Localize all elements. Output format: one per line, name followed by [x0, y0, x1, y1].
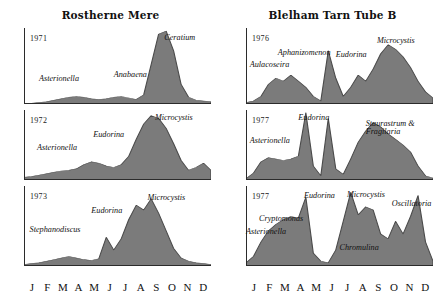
month-tick: M — [308, 281, 324, 299]
taxon-label-eudorina: Eudorina — [336, 51, 367, 60]
year-label: 1976 — [252, 34, 269, 43]
panel-y-axis — [246, 28, 247, 104]
panel-y-axis — [24, 110, 25, 180]
month-tick: S — [371, 281, 387, 299]
month-tick: A — [71, 281, 87, 299]
taxon-label-aphanizomenon: Aphanizomenon — [278, 49, 331, 58]
taxon-label-oscillatoria: Oscillatoria — [392, 200, 432, 209]
month-tick: O — [164, 281, 180, 299]
month-tick: J — [102, 281, 118, 299]
month-tick: D — [417, 281, 433, 299]
taxon-label-eudorina: Eudorina — [91, 207, 122, 216]
panel-y-axis — [24, 28, 25, 104]
column-title-left: Rostherne Mere — [0, 9, 221, 21]
month-tick: J — [324, 281, 340, 299]
taxon-label-microcystis: Microcystis — [377, 37, 415, 46]
panel-baseline — [24, 179, 211, 180]
taxon-label-anabaena: Anabaena — [114, 71, 147, 80]
panel-baseline — [246, 265, 433, 266]
month-tick: F — [40, 281, 56, 299]
panel-blelham-tarn-tube-b-1977-2: 1977AsterionellaCryptomonasEudorinaMicro… — [246, 186, 433, 266]
month-tick: M — [55, 281, 71, 299]
taxon-label-staurastrum-fragilaria: Staurastrum &Fragilaria — [366, 120, 415, 136]
taxon-label-ceratium: Ceratium — [164, 34, 195, 43]
month-axis-right: JFMAMJJASOND — [246, 281, 433, 299]
month-tick: J — [24, 281, 40, 299]
panel-y-axis — [246, 186, 247, 266]
taxon-label-eudorina: Eudorina — [298, 114, 329, 123]
month-tick: S — [149, 281, 165, 299]
month-tick: A — [355, 281, 371, 299]
month-tick: D — [195, 281, 211, 299]
panel-stack-left: 1971AsterionellaAnabaenaCeratium1972Aste… — [24, 28, 211, 266]
month-tick: J — [117, 281, 133, 299]
month-tick: J — [246, 281, 262, 299]
taxon-label-microcystis: Microcystis — [147, 194, 185, 203]
column-title-right: Blelham Tarn Tube B — [222, 9, 443, 21]
panel-rostherne-mere-1972-1: 1972AsterionellaEudorinaMicrocystis — [24, 110, 211, 180]
area-series — [246, 186, 433, 266]
month-tick: J — [339, 281, 355, 299]
taxon-label-asterionella: Asterionella — [250, 137, 290, 146]
taxon-label-chromulina: Chromulina — [340, 244, 379, 253]
month-axis-left: JFMAMJJASOND — [24, 281, 211, 299]
taxon-label-microcystis: Microcystis — [155, 114, 193, 123]
taxon-label-asterionella: Asterionella — [37, 144, 77, 153]
taxon-label-stephanodiscus: Stephanodiscus — [30, 226, 81, 235]
year-label: 1977 — [252, 192, 269, 201]
panel-y-axis — [24, 186, 25, 266]
taxon-label-asterionella: Asterionella — [246, 228, 286, 237]
panel-baseline — [24, 265, 211, 266]
taxon-label-eudorina: Eudorina — [93, 131, 124, 140]
month-tick: N — [180, 281, 196, 299]
panel-rostherne-mere-1973-2: 1973StephanodiscusEudorinaMicrocystis — [24, 186, 211, 266]
year-label: 1972 — [30, 116, 47, 125]
taxon-label-aulacoseira: Aulacoseira — [250, 61, 290, 70]
year-label: 1973 — [30, 192, 47, 201]
taxon-label-asterionella: Asterionella — [39, 75, 79, 84]
taxon-label-eudorina: Eudorina — [304, 192, 335, 201]
taxon-label-microcystis: Microcystis — [347, 191, 385, 200]
year-label: 1971 — [30, 34, 47, 43]
panel-baseline — [24, 103, 211, 104]
panel-stack-right: 1976AulacoseiraAphanizomenonEudorinaMicr… — [246, 28, 433, 266]
panel-y-axis — [246, 110, 247, 180]
month-tick: A — [133, 281, 149, 299]
panel-blelham-tarn-tube-b-1976-0: 1976AulacoseiraAphanizomenonEudorinaMicr… — [246, 28, 433, 104]
panel-baseline — [246, 103, 433, 104]
month-tick: A — [293, 281, 309, 299]
month-tick: M — [86, 281, 102, 299]
month-tick: F — [262, 281, 278, 299]
area-plot — [246, 186, 433, 266]
taxon-label-cryptomonas: Cryptomonas — [259, 215, 303, 224]
panel-baseline — [246, 179, 433, 180]
column-blelham-tarn-tube-b: Blelham Tarn Tube B 1976AulacoseiraAphan… — [222, 0, 443, 305]
panel-rostherne-mere-1971-0: 1971AsterionellaAnabaenaCeratium — [24, 28, 211, 104]
panel-blelham-tarn-tube-b-1977-1: 1977AsterionellaEudorinaStaurastrum &Fra… — [246, 110, 433, 180]
year-label: 1977 — [252, 116, 269, 125]
column-rostherne-mere: Rostherne Mere 1971AsterionellaAnabaenaC… — [0, 0, 221, 305]
month-tick: N — [402, 281, 418, 299]
phytoplankton-succession-figure: Rostherne Mere 1971AsterionellaAnabaenaC… — [0, 0, 443, 305]
month-tick: M — [277, 281, 293, 299]
month-tick: O — [386, 281, 402, 299]
